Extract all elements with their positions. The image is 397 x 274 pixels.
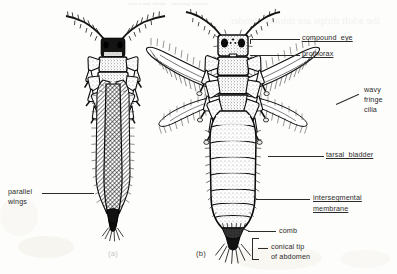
compound-eye-left (221, 38, 228, 47)
leader-parallel-wings (42, 193, 94, 194)
compound-eye-right (238, 38, 245, 47)
leader-tarsal-bladder (268, 156, 324, 157)
label-wavy-fringe-cilia-line3: cilia (364, 106, 377, 115)
figure-root: mites and thrips · sucking insects the a… (0, 0, 397, 274)
label-parallel-wings-line1: parallel (8, 188, 32, 197)
leader-comb (248, 231, 276, 232)
label-intersegmental-membrane-line1: intersegmental (313, 194, 362, 203)
abdomen-conical-tip (222, 228, 244, 239)
panel-a-insect (66, 11, 165, 241)
label-wavy-fringe-cilia-line2: fringe (364, 96, 383, 105)
label-wavy-fringe-cilia-line1: wavy (364, 86, 381, 95)
leader-conical-tip (258, 248, 268, 249)
brace-conical-tip (252, 238, 259, 260)
leader-compound-eye-stub (250, 39, 251, 44)
label-conical-tip-line1: conical tip (271, 243, 304, 252)
label-tarsal-bladder: tarsal bladder (326, 151, 373, 160)
label-conical-tip-line2: of abdomen (271, 253, 310, 262)
label-prothorax: prothorax (302, 50, 333, 59)
label-parallel-wings-line2: wings (8, 198, 27, 207)
label-intersegmental-membrane-line2: membrane (313, 205, 348, 214)
label-comb: comb (279, 227, 297, 236)
leader-intersegmental-membrane (256, 199, 310, 200)
panel-caption-b: (b) (196, 249, 206, 258)
panel-caption-a: (a) (108, 249, 118, 258)
prothorax-segment (218, 57, 249, 75)
leader-prothorax (250, 55, 300, 56)
label-compound-eye: compound eye (302, 34, 353, 43)
leader-compound-eye (250, 39, 300, 40)
